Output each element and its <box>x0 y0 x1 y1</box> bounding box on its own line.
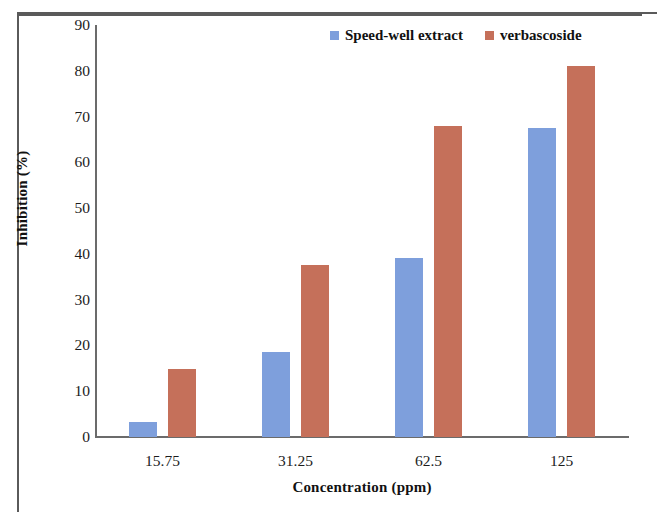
x-axis-title: Concentration (ppm) <box>96 479 628 496</box>
y-axis-title: Inhibition (%) <box>14 89 31 309</box>
bar-62.5-speed-well-extract <box>395 258 423 437</box>
y-axis-tick-60: 60 <box>50 155 90 171</box>
bar-15.75-speed-well-extract <box>129 422 157 437</box>
y-axis-tick-50: 50 <box>50 200 90 216</box>
bar-125-speed-well-extract <box>528 128 556 437</box>
legend-label: verbascoside <box>500 27 582 44</box>
legend-label: Speed-well extract <box>345 27 463 44</box>
bar-31.25-verbascoside <box>301 265 329 437</box>
legend-swatch-blue-icon <box>330 31 339 40</box>
bar-62.5-verbascoside <box>434 126 462 437</box>
x-axis-tick-31.25: 31.25 <box>278 452 313 470</box>
bar-125-verbascoside <box>567 66 595 437</box>
y-axis-tick-90: 90 <box>50 17 90 33</box>
plot-area <box>96 25 628 437</box>
bar-31.25-speed-well-extract <box>262 352 290 437</box>
chart-legend: Speed-well extractverbascoside <box>330 27 582 44</box>
x-axis-tick-125: 125 <box>550 452 573 470</box>
y-axis-tick-0: 0 <box>50 429 90 445</box>
x-axis-tick-15.75: 15.75 <box>145 452 180 470</box>
x-axis-tick-62.5: 62.5 <box>415 452 442 470</box>
y-axis-tick-70: 70 <box>50 109 90 125</box>
y-axis-tick-10: 10 <box>50 383 90 399</box>
legend-entry-speed-well-extract: Speed-well extract <box>330 27 463 44</box>
bar-15.75-verbascoside <box>168 369 196 437</box>
y-axis-tick-80: 80 <box>50 63 90 79</box>
y-axis-tick-20: 20 <box>50 338 90 354</box>
legend-swatch-red-icon <box>485 31 494 40</box>
y-axis-tick-labels: 0102030405060708090 <box>40 0 90 502</box>
y-axis-tick-40: 40 <box>50 246 90 262</box>
y-axis-tick-30: 30 <box>50 292 90 308</box>
legend-entry-verbascoside: verbascoside <box>485 27 582 44</box>
